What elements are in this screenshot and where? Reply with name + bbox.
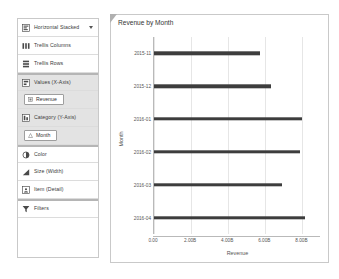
pill-label: Month (36, 133, 50, 138)
shelf-item-label: Trellis Columns (34, 43, 71, 48)
pill-revenue[interactable]: Revenue (24, 94, 64, 105)
item-detail-icon (22, 186, 30, 194)
bar[interactable] (154, 85, 271, 88)
trellis-rows-icon (22, 60, 30, 68)
shelf-item-label: Filters (34, 206, 49, 211)
horizontal-stacked-icon (22, 24, 30, 32)
category-pill-container: Month (18, 127, 98, 145)
x-axis-title: Revenue (111, 250, 328, 256)
pill-month[interactable]: Month (24, 130, 57, 141)
bar-row: 2015-11 (154, 37, 320, 70)
x-axis-tick-label: 0.00 (148, 238, 157, 243)
mark-type-label: Horizontal Stacked (34, 25, 79, 30)
pill-label: Revenue (36, 97, 57, 102)
bar-row: 2015-12 (154, 70, 320, 103)
shelf-item-label: Values (X-Axis) (34, 80, 71, 85)
y-axis-tick-label: 2016-03 (134, 182, 151, 187)
size-width-icon (22, 168, 30, 176)
x-axis-tick-label: 6.00B (258, 238, 270, 243)
shelf-item-label: Color (34, 152, 47, 157)
shelf-item-item-detail[interactable]: Item (Detail) (18, 181, 98, 199)
filter-icon (22, 205, 30, 213)
y-axis-title: Month (118, 131, 124, 146)
bar[interactable] (154, 183, 282, 186)
y-axis-tick-label: 2016-04 (134, 215, 151, 220)
values-pill-container: Revenue (18, 91, 98, 109)
shelf-empty-space (18, 217, 98, 257)
shelf-item-label: Category (Y-Axis) (34, 115, 76, 120)
bar[interactable] (154, 52, 260, 55)
x-axis-tick-label: 8.00B (295, 238, 307, 243)
y-axis-tick-label: 2016-01 (134, 117, 151, 122)
bar-row: 2016-01 (154, 103, 320, 136)
color-icon (22, 151, 30, 159)
chart-panel: Revenue by Month Month 2015-112015-12201… (110, 14, 329, 263)
category-y-axis-icon (22, 114, 30, 122)
y-axis-tick-label: 2015-11 (134, 51, 151, 56)
bar-row: 2016-02 (154, 136, 320, 169)
shelf-item-values-x-axis[interactable]: Values (X-Axis) (18, 73, 98, 91)
bar-row: 2016-03 (154, 168, 320, 201)
y-axis-tick-label: 2016-02 (134, 149, 151, 154)
plot-area: 2015-112015-122016-012016-022016-032016-… (153, 37, 320, 234)
bar[interactable] (154, 216, 305, 219)
shelf-item-label: Trellis Rows (34, 61, 63, 66)
attribute-icon (28, 133, 33, 138)
shelf-item-trellis-rows[interactable]: Trellis Rows (18, 55, 98, 73)
bar-series: 2015-112015-122016-012016-022016-032016-… (154, 37, 320, 234)
mark-type-selector[interactable]: Horizontal Stacked (18, 19, 98, 37)
shelf-item-label: Size (Width) (34, 169, 63, 174)
chevron-down-icon[interactable] (89, 26, 93, 29)
values-x-axis-icon (22, 79, 30, 87)
shelf-item-color[interactable]: Color (18, 145, 98, 163)
bar[interactable] (154, 117, 302, 120)
shelf-item-filters[interactable]: Filters (18, 199, 98, 217)
trellis-columns-icon (22, 42, 30, 50)
shelf-item-category-y-axis[interactable]: Category (Y-Axis) (18, 109, 98, 127)
shelf-item-size-width[interactable]: Size (Width) (18, 163, 98, 181)
y-axis-tick-label: 2015-12 (134, 84, 151, 89)
measure-icon (28, 97, 33, 102)
app-root: Horizontal Stacked Trellis Columns (0, 0, 339, 279)
x-axis-tick-labels: 0.002.00B4.00B6.00B8.00B (153, 238, 320, 246)
x-axis-title-text: Revenue (227, 250, 249, 256)
x-axis-tick-label: 4.00B (221, 238, 233, 243)
shelf-item-trellis-columns[interactable]: Trellis Columns (18, 37, 98, 55)
x-axis-tick-label: 2.00B (184, 238, 196, 243)
x-axis-line (153, 236, 320, 237)
shelf-item-label: Item (Detail) (34, 187, 64, 192)
bar-row: 2016-04 (154, 201, 320, 234)
visualization-shelf-panel: Horizontal Stacked Trellis Columns (17, 18, 99, 258)
bar[interactable] (154, 150, 300, 153)
plot-wrapper: Month 2015-112015-122016-012016-022016-0… (111, 15, 328, 262)
